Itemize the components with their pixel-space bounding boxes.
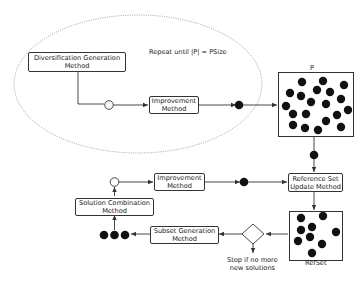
decision-diamond — [242, 224, 264, 244]
subset-dot-1 — [100, 231, 109, 240]
stop-line1: Stop if no more — [227, 256, 278, 264]
stop-condition-label: Stop if no more new solutions — [227, 256, 278, 272]
population-label: P — [310, 64, 314, 72]
refset-label: RefSet — [305, 259, 327, 267]
diversification-line1: Diversification Generation — [34, 54, 120, 62]
improvement-top-line1: Improvement — [152, 97, 196, 105]
open-node-top — [105, 101, 114, 110]
reference-set-update-method: Reference Set Update Method — [288, 173, 343, 192]
refset-update-line2: Update Method — [290, 183, 341, 191]
subset-line2: Method — [172, 235, 197, 243]
solution-dot-mid — [310, 151, 319, 160]
solution-dot-top — [235, 101, 244, 110]
population-container — [278, 72, 354, 137]
subset-dot-3 — [121, 231, 130, 240]
improvement-bottom-line2: Method — [167, 182, 192, 190]
improvement-method-top: Improvement Method — [149, 96, 199, 114]
open-node-bottom — [110, 178, 119, 187]
diversification-generation-method: Diversification Generation Method — [28, 52, 126, 72]
combination-line2: Method — [102, 207, 127, 215]
subset-generation-method: Subset Generation Method — [150, 226, 219, 244]
combination-line1: Solution Combination — [79, 199, 150, 207]
improvement-top-line2: Method — [162, 105, 187, 113]
solution-dot-bottom — [240, 178, 249, 187]
subset-line1: Subset Generation — [154, 227, 216, 235]
connector-diversification-to-node — [78, 72, 104, 104]
refset-container — [289, 211, 343, 261]
repeat-loop-ellipse — [14, 15, 262, 153]
stop-line2: new solutions — [227, 264, 278, 272]
refset-update-line1: Reference Set — [292, 175, 338, 183]
solution-combination-method: Solution Combination Method — [75, 198, 154, 216]
subset-dot-2 — [110, 231, 119, 240]
improvement-method-bottom: Improvement Method — [154, 173, 205, 191]
diversification-line2: Method — [65, 62, 90, 70]
repeat-loop-label: Repeat until |P| = PSize — [149, 48, 227, 56]
improvement-bottom-line1: Improvement — [157, 174, 201, 182]
